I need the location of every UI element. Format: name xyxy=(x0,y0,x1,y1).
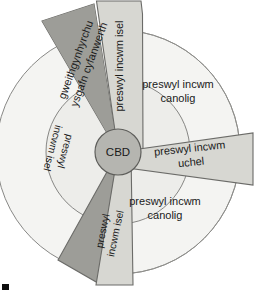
cbd-group: CBD xyxy=(95,129,141,175)
corner-registration-mark xyxy=(2,284,9,290)
label-middle-upper-line2: canolig xyxy=(161,92,196,104)
label-middle-upper-line1: preswyl incwm xyxy=(142,78,214,90)
cbd-label: CBD xyxy=(106,146,130,158)
label-low-income-top: preswyl incwm isel xyxy=(113,20,125,111)
sector-model-svg: CBD gweithgynhyrchu ysgafn cyfanwerth pr… xyxy=(0,0,260,292)
sector-model-diagram: CBD gweithgynhyrchu ysgafn cyfanwerth pr… xyxy=(0,0,260,292)
label-middle-lower-line1: preswyl incwm xyxy=(129,195,201,207)
label-middle-lower-line2: canolig xyxy=(148,209,183,221)
label-low-income-top-text: preswyl incwm isel xyxy=(113,20,125,111)
